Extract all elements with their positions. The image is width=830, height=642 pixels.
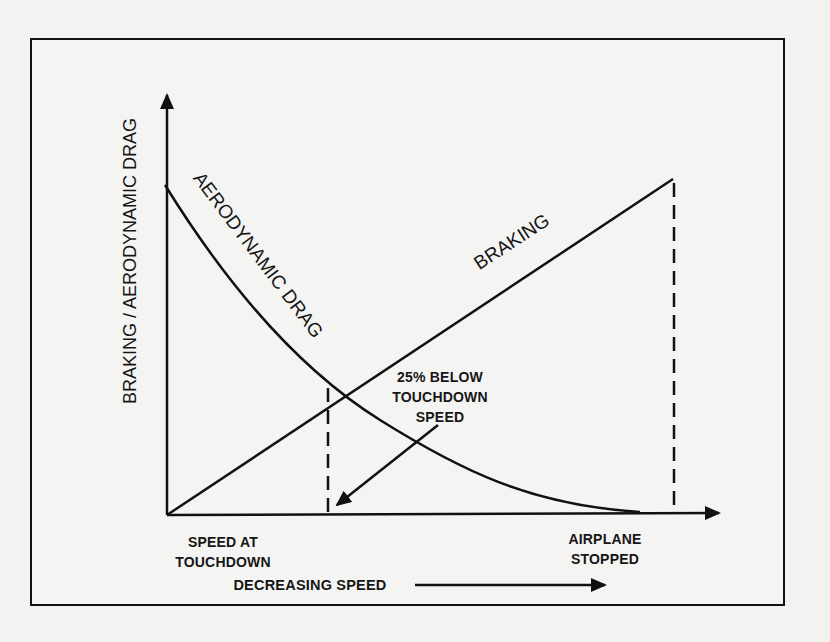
speed-at-touchdown-label: SPEED AT TOUCHDOWN: [168, 532, 278, 572]
x-axis: [167, 513, 719, 515]
crossover-pointer-arrow: [337, 425, 438, 505]
y-axis-label: BRAKING / AERODYNAMIC DRAG: [120, 118, 141, 404]
airplane-stopped-label: AIRPLANE STOPPED: [560, 529, 650, 569]
decreasing-speed-label: DECREASING SPEED: [210, 575, 410, 595]
crossover-annotation: 25% BELOW TOUCHDOWN SPEED: [385, 367, 495, 427]
